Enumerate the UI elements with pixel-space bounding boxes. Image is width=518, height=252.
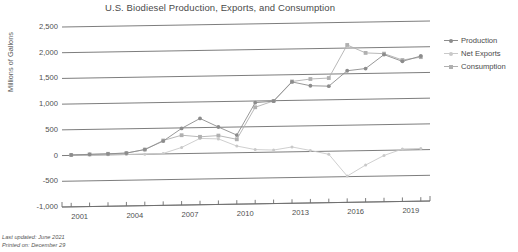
- gridline: [62, 124, 430, 130]
- data-point: [143, 153, 146, 156]
- data-point: [180, 127, 184, 131]
- data-point: [272, 149, 275, 152]
- data-point: [235, 137, 239, 141]
- x-axis-line: [62, 201, 430, 207]
- data-point: [345, 69, 349, 73]
- data-point: [254, 148, 257, 151]
- data-point: [401, 59, 405, 63]
- data-point: [419, 147, 422, 150]
- legend-label: Consumption: [461, 62, 506, 71]
- data-point: [327, 76, 331, 80]
- data-point: [235, 145, 238, 148]
- data-point: [401, 147, 404, 150]
- legend-swatch-icon: [444, 62, 458, 71]
- data-point: [180, 133, 184, 137]
- legend-swatch-icon: [444, 49, 458, 58]
- data-point: [309, 149, 312, 152]
- data-point: [383, 154, 386, 157]
- printed-on-note: Printed on: December 29: [2, 242, 65, 248]
- series-line-consumption: [71, 45, 421, 155]
- data-point: [291, 145, 294, 148]
- data-point: [125, 151, 129, 155]
- gridline: [62, 175, 430, 181]
- data-point: [345, 43, 349, 47]
- data-point: [235, 133, 239, 137]
- data-point: [327, 153, 330, 156]
- data-point: [364, 164, 367, 167]
- data-point: [272, 99, 276, 103]
- legend-item-net-exports[interactable]: Net Exports: [444, 48, 518, 59]
- data-point: [106, 152, 110, 156]
- data-point: [143, 148, 147, 152]
- chart-container: U.S. Biodiesel Production, Exports, and …: [0, 0, 518, 252]
- legend-label: Net Exports: [461, 49, 501, 58]
- legend-swatch-icon: [444, 36, 458, 45]
- plot-area: [0, 0, 518, 252]
- legend-item-consumption[interactable]: Consumption: [444, 61, 518, 72]
- last-updated-note: Last updated: June 2021: [2, 234, 65, 240]
- data-point: [217, 134, 221, 138]
- gridline: [62, 47, 430, 53]
- data-point: [253, 101, 257, 105]
- chart-legend: ProductionNet ExportsConsumption: [444, 35, 518, 74]
- data-point: [217, 137, 220, 140]
- data-point: [161, 139, 165, 143]
- legend-item-production[interactable]: Production: [444, 35, 518, 46]
- data-point: [162, 152, 165, 155]
- data-point: [346, 175, 349, 178]
- data-point: [180, 146, 183, 149]
- data-point: [364, 51, 368, 55]
- data-point: [364, 67, 368, 71]
- data-point: [88, 152, 92, 156]
- legend-label: Production: [461, 36, 497, 45]
- data-point: [309, 84, 313, 88]
- data-point: [382, 53, 386, 57]
- gridline: [62, 21, 430, 27]
- data-point: [327, 84, 331, 88]
- series-line-production: [71, 55, 421, 155]
- data-point: [419, 54, 423, 58]
- series-line-net-exports: [71, 138, 421, 176]
- data-point: [69, 153, 73, 157]
- data-point: [217, 125, 221, 129]
- data-point: [198, 135, 202, 139]
- gridline: [62, 72, 430, 78]
- gridline: [62, 98, 430, 104]
- data-point: [198, 117, 202, 121]
- data-point: [309, 77, 313, 81]
- data-point: [290, 80, 294, 84]
